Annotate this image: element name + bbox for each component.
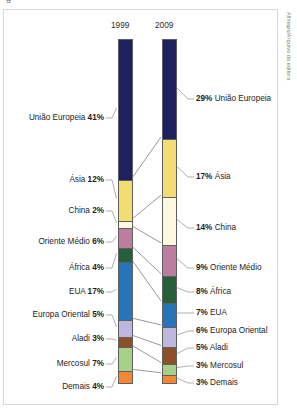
bar-segment-2009-5 bbox=[163, 303, 176, 327]
left-label-1: Ásia 12% bbox=[69, 175, 104, 184]
left-label-name-7: Aladi bbox=[72, 334, 92, 343]
left-label-name-8: Mercosul bbox=[57, 359, 93, 368]
left-label-value-2: 2% bbox=[92, 206, 104, 215]
bar-segment-2009-0 bbox=[163, 40, 176, 139]
left-label-value-7: 3% bbox=[92, 334, 104, 343]
right-label-value-4: 8% bbox=[196, 287, 208, 296]
bar-segment-1999-5 bbox=[119, 262, 132, 320]
left-label-4: África 4% bbox=[69, 263, 104, 272]
left-label-value-1: 12% bbox=[88, 175, 104, 184]
stacked-bar-2009 bbox=[162, 39, 177, 384]
right-label-name-4: África bbox=[208, 287, 231, 296]
right-label-name-2: China bbox=[212, 223, 236, 232]
right-label-name-0: União Europeia bbox=[212, 94, 271, 103]
left-label-name-6: Europa Oriental bbox=[33, 310, 93, 319]
right-label-2: 14% China bbox=[196, 223, 236, 232]
right-label-name-9: Demais bbox=[208, 378, 238, 387]
right-label-name-7: Aladi bbox=[208, 343, 228, 352]
right-label-0: 29% União Europeia bbox=[196, 94, 271, 103]
bar-segment-1999-7 bbox=[119, 337, 132, 347]
left-label-value-8: 7% bbox=[92, 359, 104, 368]
left-label-name-4: África bbox=[69, 263, 92, 272]
bar-segment-1999-4 bbox=[119, 248, 132, 262]
right-label-6: 6% Europa Oriental bbox=[196, 326, 267, 335]
right-label-value-0: 29% bbox=[196, 94, 212, 103]
right-label-value-7: 5% bbox=[196, 343, 208, 352]
right-label-name-1: Ásia bbox=[212, 172, 230, 181]
bar-segment-2009-4 bbox=[163, 276, 176, 303]
bar-segment-2009-1 bbox=[163, 139, 176, 197]
right-label-4: 8% África bbox=[196, 287, 231, 296]
right-label-value-2: 14% bbox=[196, 223, 212, 232]
bar-segment-2009-7 bbox=[163, 347, 176, 364]
bar-segment-2009-8 bbox=[163, 364, 176, 374]
bar-segment-1999-6 bbox=[119, 320, 132, 337]
left-label-name-2: China bbox=[68, 206, 92, 215]
right-label-1: 17% Ásia bbox=[196, 172, 231, 181]
bar-segment-1999-8 bbox=[119, 347, 132, 371]
left-label-value-9: 4% bbox=[92, 382, 104, 391]
right-label-value-9: 3% bbox=[196, 378, 208, 387]
column-header-1999: 1999 bbox=[111, 20, 129, 30]
left-label-value-6: 5% bbox=[92, 310, 104, 319]
right-label-9: 3% Demais bbox=[196, 378, 238, 387]
left-label-9: Demais 4% bbox=[62, 382, 104, 391]
right-label-value-1: 17% bbox=[196, 172, 212, 181]
right-label-name-6: Europa Oriental bbox=[208, 326, 268, 335]
left-label-5: EUA 17% bbox=[69, 287, 104, 296]
bar-segment-1999-9 bbox=[119, 371, 132, 384]
left-label-7: Aladi 3% bbox=[72, 334, 104, 343]
bar-segment-2009-3 bbox=[163, 245, 176, 276]
stacked-bar-1999 bbox=[118, 39, 133, 384]
right-label-value-6: 6% bbox=[196, 326, 208, 335]
right-label-7: 5% Aladi bbox=[196, 343, 228, 352]
bar-segment-1999-1 bbox=[119, 180, 132, 221]
cut-off-top-text: g bbox=[6, 0, 126, 8]
left-label-name-0: União Europeia bbox=[29, 113, 88, 122]
image-credit: Allmaps/Arquivo da editora bbox=[282, 12, 296, 142]
right-label-3: 9% Oriente Médio bbox=[196, 263, 262, 272]
left-label-name-3: Oriente Médio bbox=[38, 237, 92, 246]
bar-segment-1999-0 bbox=[119, 40, 132, 180]
right-label-value-5: 7% bbox=[196, 308, 208, 317]
right-label-name-3: Oriente Médio bbox=[208, 263, 262, 272]
left-label-value-4: 4% bbox=[92, 263, 104, 272]
bar-segment-1999-3 bbox=[119, 228, 132, 248]
left-label-8: Mercosul 7% bbox=[57, 359, 104, 368]
left-label-2: China 2% bbox=[68, 206, 104, 215]
right-label-value-3: 9% bbox=[196, 263, 208, 272]
right-label-name-5: EUA bbox=[208, 308, 227, 317]
left-label-name-9: Demais bbox=[62, 382, 92, 391]
left-label-6: Europa Oriental 5% bbox=[33, 310, 104, 319]
chart-figure-frame: 1999 2009 bbox=[3, 9, 278, 405]
right-label-name-8: Mercosul bbox=[208, 361, 244, 370]
bar-segment-1999-2 bbox=[119, 221, 132, 228]
left-label-name-5: EUA bbox=[69, 287, 88, 296]
left-label-value-3: 6% bbox=[92, 237, 104, 246]
left-label-0: União Europeia 41% bbox=[29, 113, 104, 122]
bar-segment-2009-2 bbox=[163, 197, 176, 245]
left-label-name-1: Ásia bbox=[69, 175, 87, 184]
left-label-value-0: 41% bbox=[88, 113, 104, 122]
bar-segment-2009-9 bbox=[163, 375, 176, 384]
left-label-value-5: 17% bbox=[88, 287, 104, 296]
left-label-3: Oriente Médio 6% bbox=[38, 237, 104, 246]
bar-segment-2009-6 bbox=[163, 327, 176, 347]
right-label-value-8: 3% bbox=[196, 361, 208, 370]
right-label-8: 3% Mercosul bbox=[196, 361, 243, 370]
column-header-2009: 2009 bbox=[155, 20, 173, 30]
right-label-5: 7% EUA bbox=[196, 308, 227, 317]
